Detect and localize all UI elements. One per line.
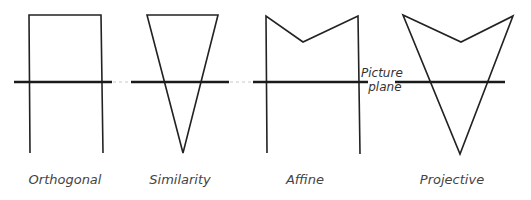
picture-plane-label-line1: Picture	[361, 66, 403, 80]
figure-projective	[395, 15, 513, 154]
figure-affine	[253, 16, 368, 154]
figure-orthogonal	[14, 15, 112, 153]
figure-label-affine: Affine	[286, 172, 324, 187]
diagram-canvas	[0, 0, 531, 200]
picture-plane-label-line2: plane	[361, 80, 403, 94]
figure-label-similarity: Similarity	[149, 172, 210, 187]
picture-plane-label: Picture plane	[361, 66, 403, 94]
figure-similarity	[131, 15, 229, 153]
figure-label-orthogonal: Orthogonal	[29, 172, 102, 187]
figure-label-projective: Projective	[420, 172, 484, 187]
